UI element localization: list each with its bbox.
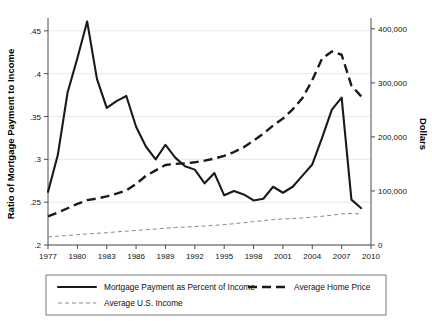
- legend-label-2: Average U.S. Income: [104, 298, 183, 308]
- x-tick-label-4: 1989: [157, 252, 175, 261]
- mortgage-income-line-chart: 1977198019831986198919921995199820012004…: [0, 0, 432, 321]
- chart-figure: 1977198019831986198919921995199820012004…: [0, 0, 432, 321]
- y-axis-right-title: Dollars: [418, 118, 429, 150]
- y2-tick-label-4: 0: [378, 241, 383, 250]
- series-line-average-home-price: [48, 52, 361, 217]
- y2-tick-label-0: 400,000: [378, 25, 407, 34]
- y2-tick-label-1: 300,000: [378, 79, 407, 88]
- y-axis-left-title: Ratio of Mortgage Payment to Income: [5, 49, 16, 220]
- series-line-mortgage-payment-as-percent-of-income: [48, 21, 361, 208]
- y-axis-left-ticks: .45.4.35.3.25.2: [30, 27, 48, 250]
- x-tick-label-8: 2001: [274, 252, 292, 261]
- series-layer: [48, 21, 361, 236]
- y-tick-label-1: .4: [34, 70, 41, 79]
- y-tick-label-0: .45: [30, 27, 42, 36]
- y2-tick-label-3: 100,000: [378, 187, 407, 196]
- chart-legend: Mortgage Payment as Percent of IncomeAve…: [46, 275, 386, 315]
- y2-tick-label-2: 200,000: [378, 133, 407, 142]
- x-tick-label-9: 2004: [303, 252, 321, 261]
- legend-label-1: Average Home Price: [294, 282, 371, 292]
- x-tick-label-6: 1995: [215, 252, 233, 261]
- x-tick-label-1: 1980: [68, 252, 86, 261]
- y-axis-right-ticks: 400,000300,000200,000100,0000: [371, 25, 407, 250]
- x-tick-label-7: 1998: [245, 252, 263, 261]
- series-line-average-u-s-income: [48, 213, 361, 236]
- legend-label-0: Mortgage Payment as Percent of Income: [104, 282, 255, 292]
- x-tick-label-0: 1977: [39, 252, 57, 261]
- x-tick-label-3: 1986: [127, 252, 145, 261]
- x-tick-label-11: 2010: [362, 252, 380, 261]
- x-axis-ticks: 1977198019831986198919921995199820012004…: [39, 245, 380, 261]
- y-tick-label-3: .3: [34, 155, 41, 164]
- x-tick-label-5: 1992: [186, 252, 204, 261]
- y-tick-label-2: .35: [30, 113, 42, 122]
- legend-border: [46, 275, 386, 315]
- x-tick-label-10: 2007: [333, 252, 351, 261]
- y-tick-label-4: .25: [30, 198, 42, 207]
- x-tick-label-2: 1983: [98, 252, 116, 261]
- y-tick-label-5: .2: [34, 241, 41, 250]
